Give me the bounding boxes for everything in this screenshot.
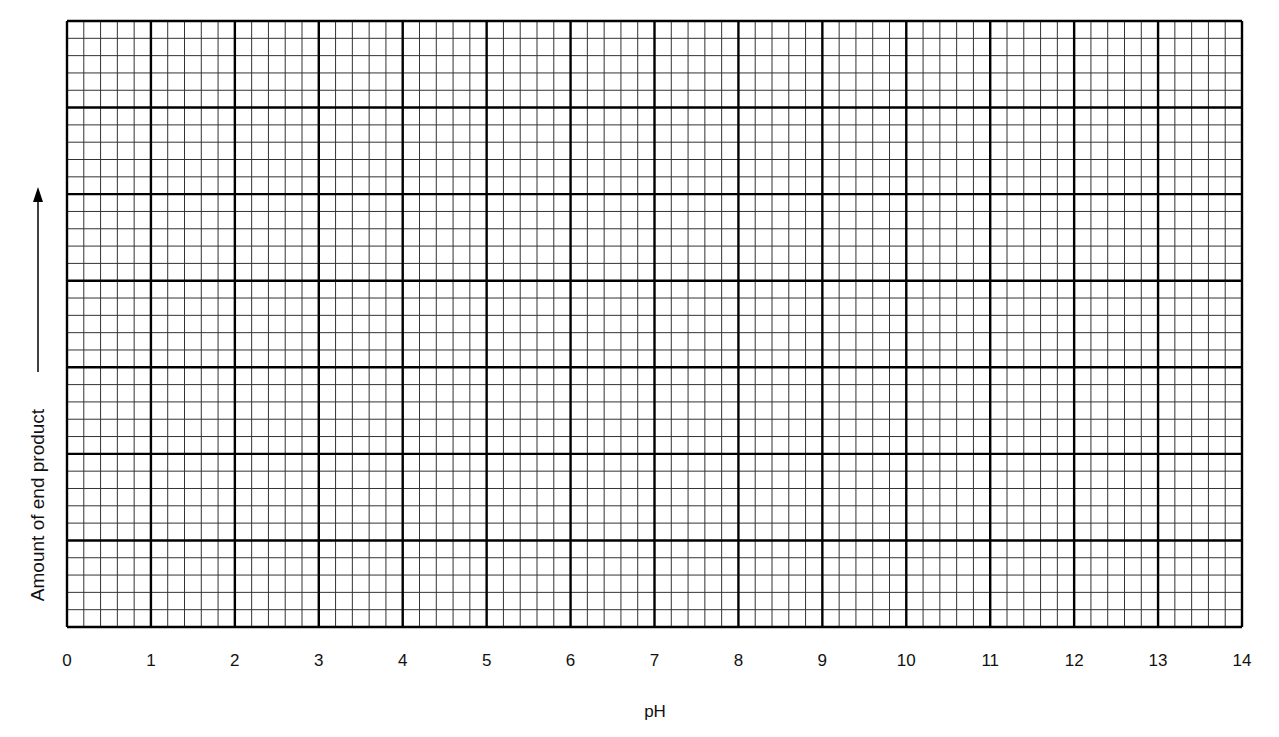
x-tick-label: 2 — [230, 651, 239, 671]
x-tick-label: 3 — [314, 651, 323, 671]
x-axis-title: pH — [644, 702, 666, 722]
arrow-up-icon — [33, 187, 43, 202]
x-tick-label: 14 — [1233, 651, 1252, 671]
x-tick-label: 9 — [818, 651, 827, 671]
x-tick-label: 0 — [62, 651, 71, 671]
x-tick-label: 13 — [1149, 651, 1168, 671]
x-tick-label: 7 — [650, 651, 659, 671]
y-axis-title-text: Amount of end product — [27, 409, 48, 601]
x-tick-label: 8 — [734, 651, 743, 671]
x-tick-label: 1 — [146, 651, 155, 671]
x-tick-label: 12 — [1065, 651, 1084, 671]
x-tick-label: 5 — [482, 651, 491, 671]
x-tick-label: 10 — [897, 651, 916, 671]
x-tick-label: 11 — [981, 651, 999, 671]
graph-paper-grid — [0, 0, 1279, 737]
x-tick-label: 6 — [566, 651, 575, 671]
x-tick-label: 4 — [398, 651, 407, 671]
y-axis-title: Amount of end product — [27, 409, 49, 601]
